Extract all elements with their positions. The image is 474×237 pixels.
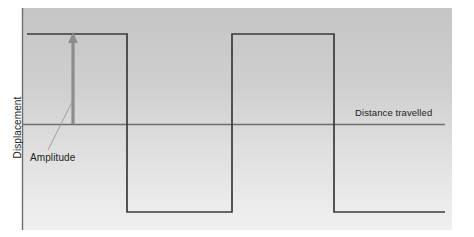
waveform-plot bbox=[0, 0, 474, 237]
square-wave-trace bbox=[27, 34, 445, 212]
y-axis-label: Displacement bbox=[12, 85, 23, 171]
figure-root: Displacement Amplitude Distance travelle… bbox=[0, 0, 474, 237]
amplitude-annotation-label: Amplitude bbox=[30, 152, 75, 163]
x-axis-label: Distance travelled bbox=[355, 107, 432, 118]
